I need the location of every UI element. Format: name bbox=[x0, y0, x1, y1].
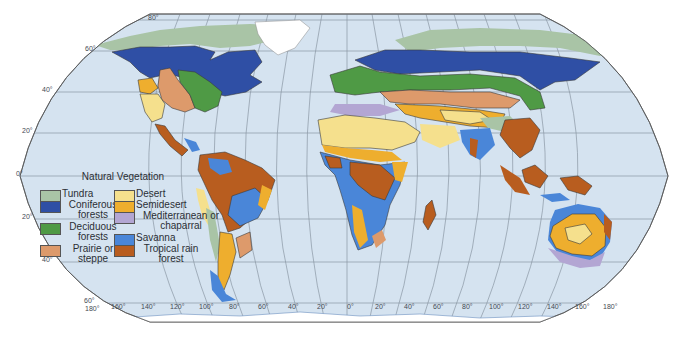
lon-label: 40° bbox=[288, 303, 299, 310]
lat-label: 60° bbox=[85, 45, 96, 52]
antarctica bbox=[0, 312, 690, 350]
lon-label: 60° bbox=[258, 303, 269, 310]
lon-label: 100° bbox=[489, 303, 504, 310]
lat-label: 60° bbox=[84, 297, 95, 304]
legend-label: Desert bbox=[136, 189, 198, 199]
lon-label: 160° bbox=[111, 303, 126, 310]
legend-label: Semidesert bbox=[136, 200, 198, 210]
lon-label: 20° bbox=[375, 303, 386, 310]
lon-label: 40° bbox=[404, 303, 415, 310]
lon-label: 20° bbox=[317, 303, 328, 310]
lon-label: 120° bbox=[170, 303, 185, 310]
lon-label: 180° bbox=[85, 305, 100, 312]
lon-label: 100° bbox=[199, 303, 214, 310]
coniferous-swatch bbox=[40, 201, 61, 213]
lat-label: 40° bbox=[42, 86, 53, 93]
legend-title: Natural Vegetation bbox=[38, 171, 208, 182]
lon-label: 80° bbox=[229, 303, 240, 310]
legend-label: Savanna bbox=[136, 233, 198, 243]
lon-label: 160° bbox=[575, 303, 590, 310]
lon-label: 80° bbox=[462, 303, 473, 310]
mediterranean-swatch bbox=[114, 212, 135, 224]
lon-label: 140° bbox=[547, 303, 562, 310]
legend-label: Tropical rain forest bbox=[136, 244, 206, 264]
lat-label: 20° bbox=[22, 213, 33, 220]
lat-label: 0° bbox=[16, 170, 23, 177]
deciduous-swatch bbox=[40, 223, 61, 235]
lat-label: 20° bbox=[22, 127, 33, 134]
tropical-rain-forest-swatch bbox=[114, 245, 135, 257]
lon-label: 180° bbox=[603, 303, 618, 310]
legend: Natural Vegetation Tundra Coniferous for… bbox=[38, 171, 208, 271]
lon-label: 140° bbox=[141, 303, 156, 310]
lat-label: 80° bbox=[148, 14, 159, 21]
legend-label: Mediterranean or chaparral bbox=[136, 211, 226, 231]
lon-label: 120° bbox=[518, 303, 533, 310]
lon-label: 0° bbox=[347, 303, 354, 310]
prairie-swatch bbox=[40, 245, 61, 257]
lon-label: 60° bbox=[433, 303, 444, 310]
